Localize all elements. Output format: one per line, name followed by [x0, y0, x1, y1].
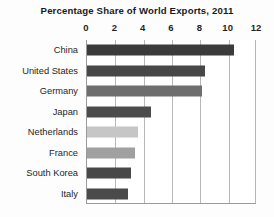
plot-area [86, 40, 256, 204]
y-category-label: France [49, 148, 78, 158]
x-tick-label: 10 [222, 22, 233, 33]
y-axis-category-labels: ChinaUnited StatesGermanyJapanNetherland… [0, 40, 82, 204]
x-tick-label: 0 [83, 22, 88, 33]
gridline [229, 40, 230, 203]
x-tick-label: 12 [251, 22, 262, 33]
bar [87, 168, 131, 179]
bar [87, 127, 138, 138]
bar [87, 65, 205, 76]
x-tick-label: 2 [112, 22, 117, 33]
bar [87, 147, 135, 158]
y-category-label: Italy [61, 189, 78, 199]
bar [87, 188, 128, 199]
y-category-label: Netherlands [28, 127, 78, 137]
y-category-label: United States [22, 66, 78, 76]
y-category-label: Germany [40, 86, 78, 96]
y-category-label: Japan [53, 107, 78, 117]
bar [87, 86, 202, 97]
bar-chart-figure: Percentage Share of World Exports, 2011 … [0, 0, 274, 217]
x-tick-label: 4 [140, 22, 145, 33]
bar [87, 106, 151, 117]
y-category-label: China [54, 45, 78, 55]
y-category-label: South Korea [26, 168, 78, 178]
x-axis-tick-labels: 024681012 [0, 22, 274, 36]
bar [87, 45, 234, 56]
x-tick-label: 8 [197, 22, 202, 33]
chart-title: Percentage Share of World Exports, 2011 [0, 5, 274, 16]
x-tick-label: 6 [168, 22, 173, 33]
